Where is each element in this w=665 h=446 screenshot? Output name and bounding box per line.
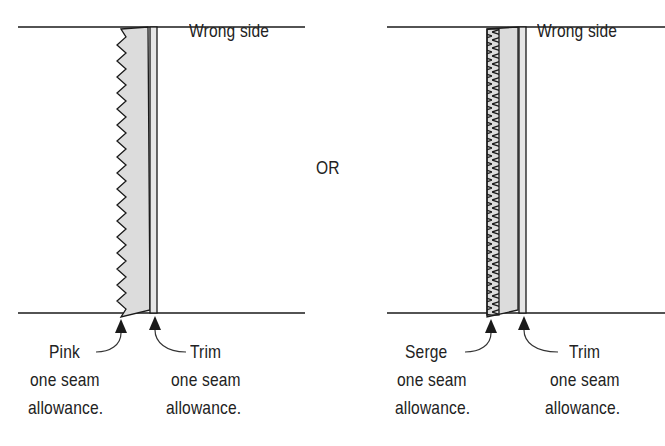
- right-trim-action: Trim: [569, 341, 600, 363]
- left-callout-action: Pink: [49, 341, 80, 363]
- arrow-up-icon: [518, 316, 530, 330]
- or-divider-label: OR: [316, 157, 340, 179]
- left-callout-line2: one seam: [30, 369, 100, 391]
- right-wrong-side-label: Wrong side: [537, 20, 617, 42]
- left-wrong-side-label: Wrong side: [189, 20, 269, 42]
- right-panel-drawing: [387, 27, 665, 352]
- trimmed-seam-allowance: [519, 27, 526, 313]
- pinked-seam-allowance: [117, 27, 150, 317]
- trimmed-seam-allowance: [150, 27, 157, 313]
- arrow-up-icon: [485, 319, 497, 333]
- right-callout-action: Serge: [405, 341, 447, 363]
- serge-stitching: [487, 29, 499, 315]
- left-trim-action: Trim: [190, 341, 221, 363]
- left-trim-line3: allowance.: [166, 397, 241, 419]
- arrow-up-icon: [149, 316, 161, 330]
- right-callout-line2: one seam: [397, 369, 467, 391]
- right-callout-line3: allowance.: [395, 397, 470, 419]
- left-panel-drawing: [18, 27, 305, 352]
- left-trim-line2: one seam: [171, 369, 241, 391]
- right-trim-line3: allowance.: [545, 397, 620, 419]
- left-callout-line3: allowance.: [28, 397, 103, 419]
- right-trim-line2: one seam: [550, 369, 620, 391]
- seam-finish-diagram: Wrong side Pink one seam allowance. Trim…: [0, 0, 665, 446]
- arrow-up-icon: [115, 319, 127, 333]
